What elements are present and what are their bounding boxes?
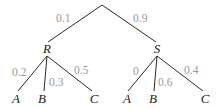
prob-label-R: 0.1 bbox=[56, 12, 71, 24]
node-S: S bbox=[154, 41, 161, 56]
prob-label-R-B: 0.3 bbox=[49, 76, 64, 88]
leaf-R-B: B bbox=[38, 91, 46, 106]
prob-label-R-A: 0.2 bbox=[12, 66, 27, 78]
prob-label-S-B: 0.6 bbox=[158, 76, 173, 88]
leaf-S-A: A bbox=[122, 91, 131, 106]
prob-label-R-C: 0.5 bbox=[74, 64, 89, 76]
edge-R-B bbox=[44, 56, 47, 91]
leaf-R-A: A bbox=[11, 91, 20, 106]
edge-S-B bbox=[154, 56, 157, 91]
prob-label-S-C: 0.4 bbox=[184, 64, 199, 76]
edge-root-S bbox=[102, 5, 156, 42]
prob-label-S: 0.9 bbox=[133, 12, 148, 24]
leaf-S-C: C bbox=[201, 91, 210, 106]
leaf-R-C: C bbox=[90, 91, 99, 106]
probability-tree-diagram: 0.1 0.9 R S 0.2 0.3 0.5 A B C 0 0.6 0.4 … bbox=[0, 0, 216, 109]
node-R: R bbox=[42, 41, 51, 56]
leaf-S-B: B bbox=[149, 91, 157, 106]
prob-label-S-A: 0 bbox=[133, 65, 139, 77]
